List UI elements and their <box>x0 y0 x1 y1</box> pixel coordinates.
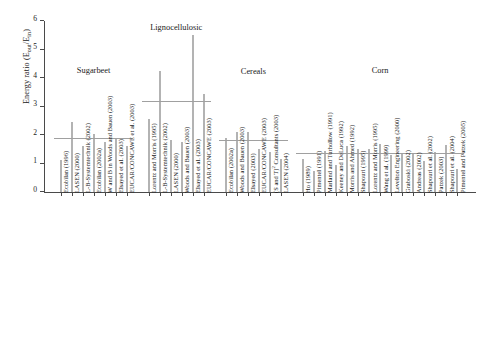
y-tick-1: 1 <box>40 163 44 164</box>
bar <box>390 155 392 192</box>
y-tick-label: 3 <box>33 100 37 108</box>
x-axis-tick-labels: Ecobilan (1996)LASEN (2000)L-B-Systemtec… <box>44 193 476 338</box>
group-label-cereals: Cereals <box>193 68 313 76</box>
y-tick-6: 6 <box>40 20 44 21</box>
x-tick-label: Levelton Engineering (2000) <box>394 117 400 193</box>
x-tick-label: LASEN (2004) <box>283 153 289 193</box>
bar <box>368 149 370 192</box>
x-tick-label: Keeney and DeLuca (1992) <box>338 121 344 193</box>
x-tick-label: Woods and Bauen (2003) <box>184 127 190 193</box>
y-tick-3: 3 <box>40 106 44 107</box>
y-tick-label: 0 <box>33 186 37 194</box>
x-tick-label: Ecobilan (1996) <box>63 151 69 193</box>
x-tick-label: L-B-Systemtechnik (2002) <box>162 123 168 193</box>
y-tick-label: 2 <box>33 129 37 137</box>
x-tick-label: Elsayed (2003) <box>250 153 256 193</box>
y-tick-5: 5 <box>40 49 44 50</box>
x-tick-label: EUCAR/CONCAWE et al. (2003) <box>129 104 135 193</box>
y-tick-2: 2 <box>40 134 44 135</box>
bar <box>412 153 414 192</box>
x-tick-label: Woods and Bauen (2003) <box>239 127 245 193</box>
x-tick-label: (S and T)2 Consultants (2003) <box>272 115 280 193</box>
y-axis-line <box>44 21 45 192</box>
x-tick-label: EUCAR/CONCAWE (2003) <box>206 118 212 193</box>
x-tick-label: Ho (1989) <box>305 166 311 193</box>
x-tick-label: Ecobilan (2002a) <box>228 148 234 193</box>
x-tick-label: Lorentz and Morris (1995) <box>372 123 378 193</box>
x-tick-label: Marland and Turhollow (1991) <box>327 112 333 193</box>
x-tick-label: LASEN (2000) <box>173 153 179 193</box>
x-tick-label: Shapouri et al. (2002) <box>427 136 433 193</box>
bar <box>423 161 425 192</box>
y-tick-label: 5 <box>33 43 37 51</box>
bar <box>379 144 381 192</box>
bar <box>269 152 271 192</box>
x-tick-label: Andreas (2002) <box>416 152 422 193</box>
x-tick-label: W and B in Woods and Bauen (2003) <box>107 96 113 193</box>
x-tick-label: Shapouri et al. (2004) <box>449 136 455 193</box>
y-tick-0: 0 <box>40 191 44 192</box>
x-tick-label: Elsayed et al. (2003) <box>195 139 201 193</box>
y-tick-label: 6 <box>33 15 37 23</box>
x-tick-label: Wang et al. (1999) <box>383 145 389 193</box>
y-axis-label-divider: /E <box>22 37 31 44</box>
x-tick-label: Graboski (2002) <box>405 150 411 193</box>
x-tick-label: Pimentel (1991) <box>316 151 322 193</box>
x-tick-label: Morris and Ahmed (1992) <box>349 125 355 193</box>
x-tick-label: LASEN (2000) <box>74 153 80 193</box>
bar <box>434 152 436 192</box>
y-axis-label-sub-out: out <box>26 44 32 52</box>
x-tick-label: L-B-Systemtechnik (2002) <box>85 123 91 193</box>
x-tick-label: Patzek (2003) <box>438 157 444 193</box>
x-tick-label: EUCAR/CONCAWE (2003) <box>261 118 267 193</box>
x-tick-label: Pimentel and Patzek (2005) <box>460 121 466 193</box>
group-label-corn: Corn <box>320 67 440 75</box>
y-axis-label: Energy ratio (Eout/Ein) <box>22 0 31 137</box>
mean-line-lignocellulosic <box>142 101 211 102</box>
x-tick-label: Shapouri (1995) <box>360 151 366 193</box>
group-label-sugarbeet: Sugarbeet <box>34 67 154 75</box>
x-tick-label: Elsayed et al. (2003) <box>118 139 124 193</box>
x-tick-label: Ecobilan (2002a) <box>96 148 102 193</box>
group-label-lignocellulosic: Lignocellulosic <box>116 24 236 32</box>
bar <box>456 169 458 192</box>
y-axis-label-text: Energy ratio (E <box>22 52 31 104</box>
y-axis-label-sub-in: in <box>26 32 32 37</box>
y-tick-label: 1 <box>33 157 37 165</box>
y-tick-4: 4 <box>40 77 44 78</box>
energy-ratio-bar-chart: Energy ratio (Eout/Ein) 0123456 Sugarbee… <box>0 0 482 342</box>
x-tick-label: Lorentz and Morris (1995) <box>151 123 157 193</box>
bar <box>401 153 403 192</box>
